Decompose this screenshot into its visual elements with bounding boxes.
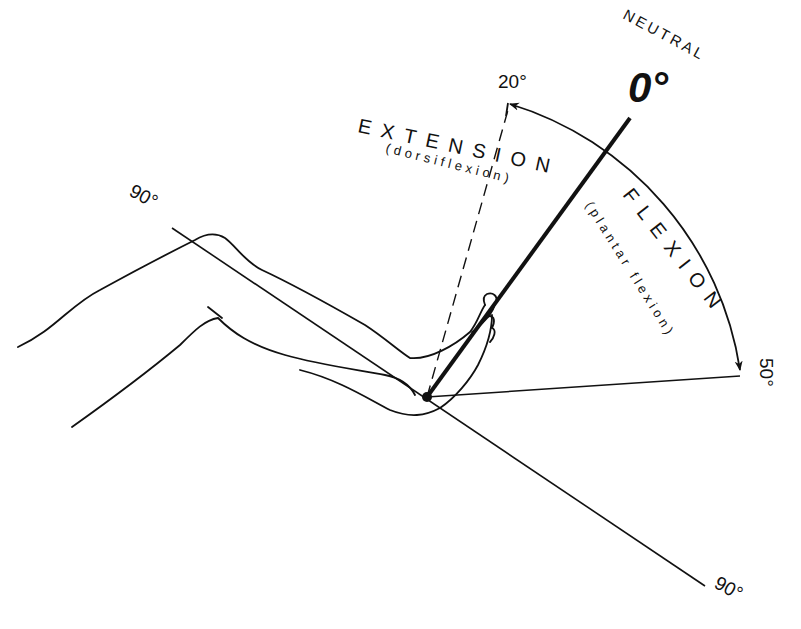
flexion-angle-label: 50° <box>756 358 777 387</box>
neutral-label: NEUTRAL <box>621 6 709 64</box>
reference-end-label: 90° <box>711 572 746 604</box>
extension-angle-label: 20° <box>498 71 527 92</box>
reference-start-label: 90° <box>126 180 161 212</box>
ankle-range-of-motion-diagram: NEUTRAL 0° 20° EXTENSION (dorsiflexion) … <box>0 0 801 629</box>
flexion-limit-line <box>427 376 740 397</box>
neutral-angle-label: 0° <box>628 64 669 111</box>
flexion-label: FLEXION <box>619 184 732 320</box>
ankle-pivot-dot <box>422 392 432 402</box>
extension-tick <box>506 103 508 116</box>
reference-line-90 <box>172 228 705 586</box>
